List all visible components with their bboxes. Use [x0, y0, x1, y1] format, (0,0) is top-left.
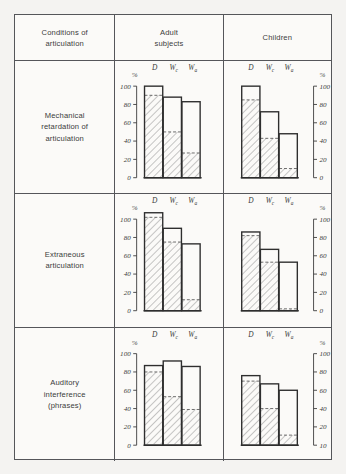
header-children: Children	[223, 15, 331, 60]
svg-text:20: 20	[319, 423, 327, 431]
bar-label-wc: Wc	[266, 196, 275, 206]
svg-text:20: 20	[124, 156, 132, 164]
svg-text:40: 40	[124, 405, 132, 413]
bar-label-wc: Wc	[266, 330, 275, 340]
svg-text:80: 80	[124, 101, 132, 109]
svg-text:40: 40	[124, 137, 132, 145]
svg-text:60: 60	[124, 386, 132, 394]
bar-label-d: D	[152, 196, 157, 205]
svg-text:60: 60	[124, 119, 132, 127]
bar-group-labels: DWcWa	[224, 330, 331, 342]
bar-label-d: D	[152, 63, 157, 72]
bar-label-wa: Wa	[285, 330, 294, 340]
svg-text:0: 0	[319, 307, 323, 315]
bar-group-labels: DWcWa	[224, 63, 331, 75]
svg-text:20: 20	[124, 423, 132, 431]
svg-text:20: 20	[124, 289, 132, 297]
table-row: Extraneousarticulation 100806040200%DWcW…	[15, 194, 331, 327]
svg-text:0: 0	[128, 307, 132, 315]
svg-text:100: 100	[319, 216, 330, 224]
chart-figure: Conditions ofarticulation Adultsubjects …	[14, 14, 332, 460]
table-row: Auditoryinterference(phrases) 1008060402…	[15, 328, 331, 461]
header-conditions: Conditions ofarticulation	[15, 15, 114, 60]
svg-text:0: 0	[128, 441, 132, 449]
table-row: Mechanicalretardation ofarticulation 100…	[15, 61, 331, 194]
svg-text:20: 20	[319, 289, 327, 297]
bar-label-wc: Wc	[266, 63, 275, 73]
bar-label-wc: Wc	[169, 196, 178, 206]
bar-group-labels: DWcWa	[115, 196, 222, 208]
bar-group-labels: DWcWa	[115, 63, 222, 75]
bar-label-wa: Wa	[285, 63, 294, 73]
svg-text:40: 40	[124, 271, 132, 279]
svg-text:80: 80	[124, 368, 132, 376]
svg-text:40: 40	[319, 405, 327, 413]
plot-mechanical-adult: 100806040200%DWcWa	[114, 61, 222, 193]
svg-text:80: 80	[319, 368, 327, 376]
table-header: Conditions ofarticulation Adultsubjects …	[15, 15, 331, 61]
plot-mechanical-children: 100806040200%DWcWa	[223, 61, 331, 193]
svg-text:80: 80	[319, 234, 327, 242]
row-label-extraneous-articulation: Extraneousarticulation	[15, 194, 114, 326]
bar-label-wa: Wa	[188, 330, 197, 340]
svg-text:100: 100	[319, 83, 330, 91]
plot-auditory-adult: 100806040200%DWcWa	[114, 328, 222, 461]
bar-label-wc: Wc	[169, 63, 178, 73]
header-adult-subjects: Adultsubjects	[114, 15, 222, 60]
bar-label-d: D	[248, 196, 253, 205]
bar-label-d: D	[152, 330, 157, 339]
bar-group-labels: DWcWa	[224, 196, 331, 208]
svg-text:80: 80	[319, 101, 327, 109]
svg-text:10: 10	[319, 441, 327, 449]
svg-text:100: 100	[121, 350, 132, 358]
row-label-auditory-interference: Auditoryinterference(phrases)	[15, 328, 114, 461]
svg-text:60: 60	[319, 119, 327, 127]
bar-label-d: D	[248, 63, 253, 72]
bar-label-wa: Wa	[188, 63, 197, 73]
svg-text:60: 60	[319, 252, 327, 260]
svg-text:20: 20	[319, 156, 327, 164]
row-label-mechanical-retardation: Mechanicalretardation ofarticulation	[15, 61, 114, 193]
plot-extraneous-children: 100806040200%DWcWa	[223, 194, 331, 326]
svg-text:40: 40	[319, 271, 327, 279]
svg-text:80: 80	[124, 234, 132, 242]
bar-label-d: D	[248, 330, 253, 339]
plot-auditory-children: 1008060402010%DWcWa	[223, 328, 331, 461]
svg-text:100: 100	[121, 83, 132, 91]
svg-text:100: 100	[121, 216, 132, 224]
bar-label-wc: Wc	[169, 330, 178, 340]
plot-extraneous-adult: 100806040200%DWcWa	[114, 194, 222, 326]
svg-text:0: 0	[319, 174, 323, 182]
bar-label-wa: Wa	[285, 196, 294, 206]
svg-text:60: 60	[319, 386, 327, 394]
bar-group-labels: DWcWa	[115, 330, 222, 342]
svg-text:100: 100	[319, 350, 330, 358]
svg-text:40: 40	[319, 137, 327, 145]
svg-text:60: 60	[124, 252, 132, 260]
svg-text:0: 0	[128, 174, 132, 182]
bar-label-wa: Wa	[188, 196, 197, 206]
